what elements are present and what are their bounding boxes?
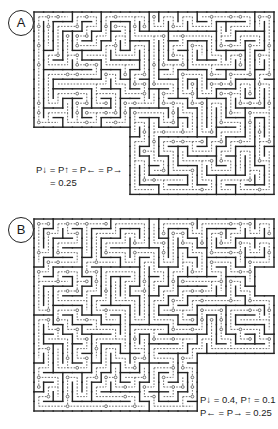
caption-a-line2: = 0.25 xyxy=(36,176,122,189)
maze-walls xyxy=(34,219,274,411)
caption-b-line1: P↓ = 0.4, P↑ = 0.1 xyxy=(200,393,276,406)
caption-b-line2: P← = P→ = 0.25 xyxy=(200,406,276,419)
probability-caption-a: P↓ = P↑ = P← = P→ = 0.25 xyxy=(36,163,122,189)
panel-b: B P↓ = 0.4, P↑ = 0.1 P← = P→ = 0.25 xyxy=(0,215,278,429)
panel-a: A P↓ = P↑ = P← = P→ = 0.25 xyxy=(0,0,278,215)
panel-label-b: B xyxy=(8,217,34,243)
panel-label-a: A xyxy=(8,10,34,36)
caption-a-line1: P↓ = P↑ = P← = P→ xyxy=(36,163,122,176)
probability-caption-b: P↓ = 0.4, P↑ = 0.1 P← = P→ = 0.25 xyxy=(200,393,276,419)
walk-paths xyxy=(39,224,269,406)
